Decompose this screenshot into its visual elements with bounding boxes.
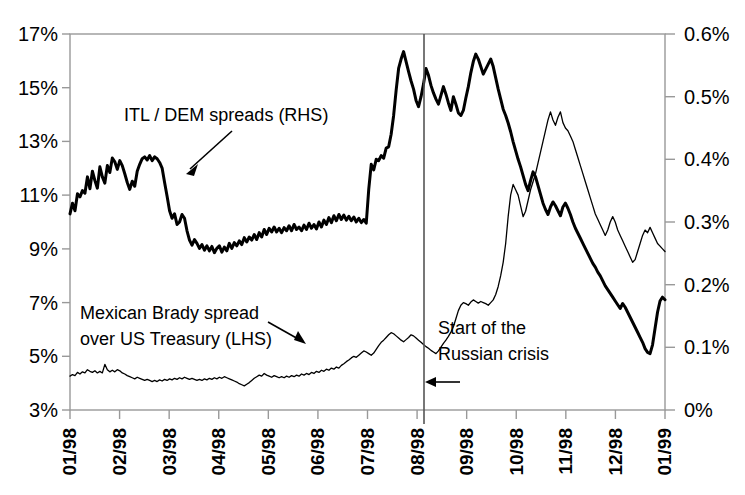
left-axis-labels: 17% 15% 13% 11% 9% 7% 5% 3% (18, 23, 58, 421)
x-tick-label: 07/98 (357, 428, 378, 476)
left-tick-7: 7% (29, 292, 58, 314)
left-tick-11: 11% (19, 184, 58, 206)
left-tick-9: 9% (29, 238, 58, 260)
x-tick-label: 01/98 (59, 428, 80, 476)
right-axis-ticks (665, 34, 675, 410)
x-tick-label: 01/99 (654, 428, 675, 476)
x-axis-labels: 01/9802/9803/9804/9805/9806/9807/9808/98… (59, 428, 675, 476)
annotation-itl-dem-label: ITL / DEM spreads (RHS) (124, 105, 328, 125)
left-tick-17: 17% (18, 23, 58, 45)
left-axis-ticks (62, 34, 70, 410)
x-tick-label: 10/98 (506, 428, 527, 476)
left-tick-13: 13% (18, 130, 58, 152)
right-tick-02: 0.2% (684, 274, 730, 296)
x-tick-label: 03/98 (159, 428, 180, 476)
x-tick-label: 11/98 (555, 428, 576, 475)
left-tick-5: 5% (29, 345, 58, 367)
annotation-russian-crisis-line2: Russian crisis (438, 344, 549, 364)
x-tick-label: 02/98 (109, 428, 130, 476)
annotation-mexican-brady-line1: Mexican Brady spread (80, 303, 259, 323)
right-tick-01: 0.1% (684, 336, 730, 358)
right-tick-03: 0.3% (684, 211, 730, 233)
right-axis-labels: 0.6% 0.5% 0.4% 0.3% 0.2% 0.1% 0% (684, 23, 730, 421)
right-tick-00: 0% (684, 399, 713, 421)
x-tick-label: 09/98 (456, 428, 477, 476)
left-tick-3: 3% (29, 399, 58, 421)
x-tick-label: 12/98 (605, 428, 626, 476)
chart-page: 17% 15% 13% 11% 9% 7% 5% 3% 0.6% 0.5% 0.… (0, 0, 745, 495)
x-axis-ticks (70, 410, 665, 419)
right-tick-05: 0.5% (684, 86, 730, 108)
spreads-line-chart: 17% 15% 13% 11% 9% 7% 5% 3% 0.6% 0.5% 0.… (0, 0, 745, 495)
x-tick-label: 04/98 (208, 428, 229, 476)
x-tick-label: 06/98 (307, 428, 328, 476)
x-tick-label: 05/98 (258, 428, 279, 476)
x-tick-label: 08/98 (407, 428, 428, 476)
right-tick-06: 0.6% (684, 23, 730, 45)
right-tick-04: 0.4% (684, 148, 730, 170)
annotation-russian-crisis-line1: Start of the (438, 318, 526, 338)
left-tick-15: 15% (18, 77, 58, 99)
annotation-mexican-brady-line2: over US Treasury (LHS) (80, 329, 272, 349)
